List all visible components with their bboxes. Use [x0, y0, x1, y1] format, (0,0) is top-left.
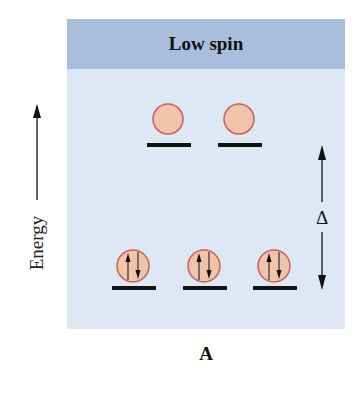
crystal-field-diagram: Low spin [0, 0, 362, 398]
energy-level-bar [147, 143, 191, 147]
energy-level-bar [183, 286, 227, 290]
lower-orbital-3 [253, 250, 297, 290]
energy-level-bar [253, 286, 297, 290]
delta-gap-label: Δ [316, 208, 328, 227]
energy-level-bar [112, 286, 156, 290]
figure-caption: A [199, 343, 213, 365]
upper-orbital-2 [218, 104, 262, 147]
energy-level-graphic [0, 0, 362, 398]
energy-axis-arrow-icon [33, 104, 41, 200]
energy-level-bar [218, 143, 262, 147]
lower-orbital-1 [112, 250, 156, 290]
delta-down-arrow-icon [318, 232, 326, 290]
upper-orbital-1 [147, 104, 191, 147]
lower-orbital-2 [183, 250, 227, 290]
energy-axis-label: Energy [26, 216, 48, 271]
delta-up-arrow-icon [318, 145, 326, 202]
